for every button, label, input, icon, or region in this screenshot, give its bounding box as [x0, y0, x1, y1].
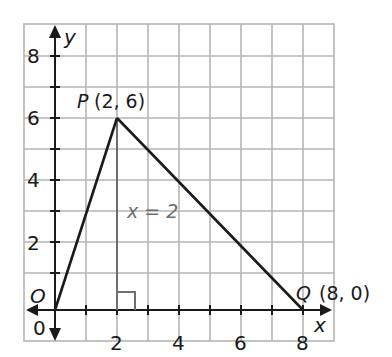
x-tick-6: 6 — [234, 331, 247, 355]
altitude-label: x = 2 — [126, 200, 178, 222]
point-p-name: P — [77, 90, 89, 112]
x-tick-2: 2 — [110, 331, 123, 355]
x-axis — [26, 304, 332, 316]
x-tick-8: 8 — [296, 331, 309, 355]
y-tick-8: 8 — [27, 44, 40, 68]
origin-tick: 0 — [33, 316, 46, 340]
y-tick-6: 6 — [27, 106, 40, 130]
origin-label: O — [30, 284, 46, 308]
point-q-name: Q — [296, 282, 311, 304]
coordinate-diagram: y x 8 6 4 2 0 2 4 6 8 O P (2, 6) Q (8, 0… — [0, 0, 392, 357]
point-q-coords: (8, 0) — [319, 282, 370, 304]
x-axis-label: x — [313, 313, 326, 337]
x-tick-4: 4 — [172, 331, 185, 355]
y-tick-2: 2 — [27, 231, 40, 255]
y-axis-label: y — [63, 25, 77, 49]
y-tick-4: 4 — [27, 168, 40, 192]
point-p-coords: (2, 6) — [94, 90, 145, 112]
